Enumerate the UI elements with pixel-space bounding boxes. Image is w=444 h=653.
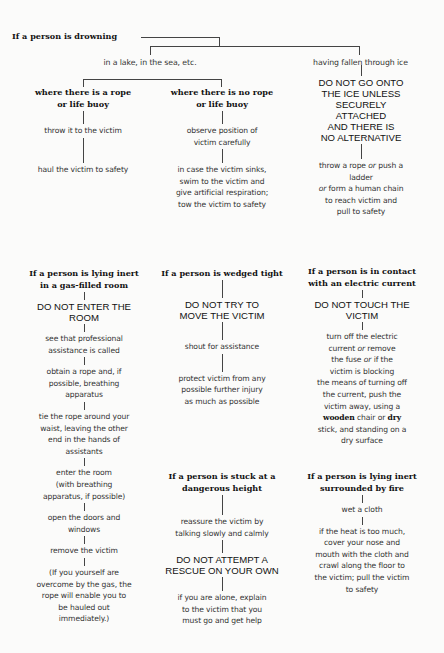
heading-line: or life buoy (196, 99, 248, 109)
wedged-warning: DO NOT TRY TOMOVE THE VICTIM (179, 299, 264, 321)
step-line: talking slowly and calmly (175, 529, 268, 538)
step-text: pull to safety (337, 207, 385, 216)
step-line: overcome by the gas, the (37, 580, 132, 589)
connector (362, 517, 363, 525)
branch-lake: in a lake, in the sea, etc. (70, 57, 230, 69)
connector (222, 111, 223, 124)
step-line: assistants (65, 447, 102, 456)
step-text: dry surface (341, 436, 383, 445)
connector (150, 46, 151, 55)
fire-column: If a person is lying inertsurrounded by … (291, 470, 433, 595)
wedged-column: If a person is wedged tight DO NOT TRY T… (152, 267, 292, 407)
step-line: to the victim that you (182, 605, 262, 614)
gas-column: If a person is lying inertin a gas-fille… (12, 267, 156, 625)
connector (84, 558, 85, 566)
no-rope-column: where there is no ropeor life buoy obser… (152, 86, 292, 211)
step-text: to reach victim and (325, 196, 397, 205)
connector (83, 111, 84, 124)
step-line: (If you yourself are (49, 568, 119, 577)
wedged-heading: If a person is wedged tight (161, 267, 283, 279)
step-line: cover your nose and (324, 538, 400, 547)
step-line: possible, breathing (49, 379, 120, 388)
step-text: or (357, 344, 365, 353)
connector (84, 357, 85, 365)
gas-step-1: see that professionalassistance is calle… (45, 333, 122, 356)
step-line: the victim; pull the victim (315, 573, 410, 582)
connector (150, 46, 360, 47)
electric-heading: If a person is in contactwith an electri… (308, 265, 416, 289)
connector (141, 37, 220, 38)
warning-line: DO NOT TRY TO (185, 299, 259, 310)
gas-warning: DO NOT ENTER THEROOM (37, 301, 131, 323)
fire-step-1: wet a cloth (342, 504, 383, 516)
step-line: open the doors and (48, 513, 120, 522)
connector (84, 324, 85, 332)
wedged-step-2: protect victim from anypossible further … (178, 373, 265, 408)
gas-step-2: obtain a rope and, ifpossible, breathing… (47, 366, 122, 401)
gas-step-4: enter the room(with breathingapparatus, … (43, 467, 125, 502)
no-rope-heading: where there is no ropeor life buoy (171, 86, 273, 110)
wedged-step-1: shout for assistance (185, 341, 259, 353)
warning-line: SECURELY (335, 99, 386, 110)
connector (359, 46, 360, 55)
step-line: possible further injury (181, 385, 262, 394)
warning-line: DO NOT ENTER THE (37, 301, 131, 312)
step-text: turn off the electric (326, 332, 397, 341)
warning-line: AND THERE IS (328, 121, 395, 132)
heading-line: If a person is in contact (308, 266, 416, 276)
step-text: remove (365, 344, 396, 353)
connector (222, 280, 223, 298)
height-step-2: if you are alone, explainto the victim t… (177, 592, 266, 627)
step-text-bold: dry (388, 413, 401, 422)
heading-line: or life buoy (57, 99, 109, 109)
ice-column: DO NOT GO ONTO THE ICE UNLESS SECURELY A… (291, 64, 431, 218)
step-text: throw a rope (319, 161, 368, 170)
step-line: mouth with the cloth and (315, 550, 408, 559)
gas-step-5: open the doors andwindows (48, 512, 120, 535)
rope-column: where there is a ropeor life buoy throw … (18, 86, 148, 175)
step-text: chair or (355, 413, 388, 422)
fire-heading: If a person is lying inertsurrounded by … (307, 470, 417, 494)
ice-step: throw a rope or push a ladder or form a … (319, 160, 404, 218)
connector (84, 292, 85, 300)
heading-line: where there is a rope (35, 87, 131, 97)
electric-step: turn off the electric current or remove … (317, 331, 407, 447)
step-text: push a (376, 161, 403, 170)
step-line: obtain a rope and, if (47, 367, 122, 376)
rope-step-2: haul the victim to safety (38, 164, 128, 176)
step-line: tie the rope around your (39, 412, 129, 421)
warning-line: DO NOT ATTEMPT A (176, 554, 268, 565)
no-rope-step-1: observe position ofvictim carefully (187, 125, 258, 148)
step-line: in case the victim sinks, (178, 165, 267, 174)
rope-step-1: throw it to the victim (44, 125, 122, 137)
step-line: as much as possible (185, 397, 260, 406)
warning-line: NO ALTERNATIVE (321, 132, 402, 143)
step-text: the fuse (331, 355, 364, 364)
step-text: ladder (349, 173, 373, 182)
connector (219, 37, 220, 46)
rope-heading: where there is a ropeor life buoy (35, 86, 131, 110)
warning-line: MOVE THE VICTIM (179, 310, 264, 321)
electric-warning: DO NOT TOUCH THEVICTIM (314, 299, 409, 321)
height-step-1: reassure the victim bytalking slowly and… (175, 516, 268, 539)
step-line: see that professional (45, 334, 122, 343)
connector (362, 290, 363, 298)
heading-line: If a person is lying inert (29, 268, 139, 278)
gas-heading: If a person is lying inertin a gas-fille… (29, 267, 139, 291)
heading-line: with an electric current (308, 278, 416, 288)
step-line: end in the hands of (48, 435, 120, 444)
connector (361, 144, 362, 159)
step-line: reassure the victim by (181, 517, 264, 526)
gas-step-6: remove the victim (50, 545, 118, 557)
drowning-title: If a person is drowning (12, 30, 117, 42)
step-text: form a human chain (326, 184, 403, 193)
height-column: If a person is stuck at adangerous heigh… (152, 470, 292, 627)
heading-line: If a person is lying inert (307, 471, 417, 481)
connector (222, 540, 223, 553)
connector (222, 149, 223, 163)
step-text: victim is blocking (330, 367, 394, 376)
height-warning: DO NOT ATTEMPT ARESCUE ON YOUR OWN (165, 554, 278, 576)
step-line: assistance is called (48, 346, 119, 355)
connector (84, 503, 85, 511)
connector (83, 138, 84, 163)
